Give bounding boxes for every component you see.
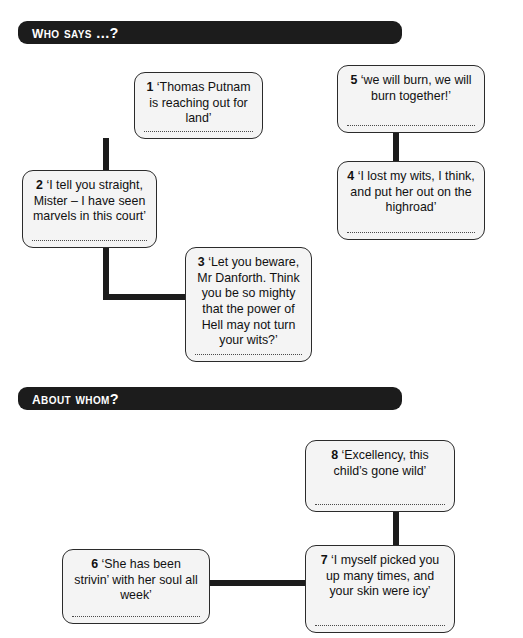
quote-box-6-text: 6 ‘She has been strivin’ with her soul a… <box>72 557 200 604</box>
quote-box-3-answer-line[interactable] <box>195 354 302 355</box>
quote-box-7-text: 7 ‘I myself picked you up many times, an… <box>315 553 445 600</box>
section-heading-who-says: Who says ...? <box>18 21 402 44</box>
quote-box-2-text: 2 ‘I tell you straight, Mister – I have … <box>32 178 147 225</box>
quote-box-6-answer-line[interactable] <box>72 616 200 617</box>
quote-box-5-number: 5 <box>350 73 357 87</box>
quote-box-5-text: 5 ‘we will burn, we will burn together!’ <box>347 73 475 104</box>
quote-box-4-quote: ‘I lost my wits, I think, and put her ou… <box>350 169 474 214</box>
quote-box-3[interactable]: 3 ‘Let you beware, Mr Danforth. Think yo… <box>185 247 312 362</box>
quote-box-3-number: 3 <box>198 255 205 269</box>
quote-box-5-answer-line[interactable] <box>347 125 475 126</box>
quote-box-1[interactable]: 1 ‘Thomas Putnam is reaching out for lan… <box>134 72 263 139</box>
quote-box-6[interactable]: 6 ‘She has been strivin’ with her soul a… <box>62 549 210 624</box>
quote-box-1-answer-line[interactable] <box>144 131 253 132</box>
section-heading-about-whom-label: About whom? <box>32 390 119 407</box>
quote-box-1-quote: ‘Thomas Putnam is reaching out for land’ <box>149 80 250 125</box>
quote-box-6-number: 6 <box>91 557 98 571</box>
connector-line-vertical-box5-box4 <box>393 131 399 163</box>
section-heading-about-whom: About whom? <box>18 387 402 410</box>
quote-box-8[interactable]: 8 ‘Excellency, this child’s gone wild’ <box>305 440 455 512</box>
quote-box-4-text: 4 ‘I lost my wits, I think, and put her … <box>347 169 475 216</box>
quote-box-2-answer-line[interactable] <box>32 240 147 241</box>
quote-box-8-quote: ‘Excellency, this child’s gone wild’ <box>334 448 429 478</box>
quote-box-7[interactable]: 7 ‘I myself picked you up many times, an… <box>305 545 455 633</box>
quote-box-4-number: 4 <box>347 169 354 183</box>
quote-box-3-text: 3 ‘Let you beware, Mr Danforth. Think yo… <box>195 255 302 349</box>
connector-line-vertical-box8-box7 <box>393 510 399 547</box>
quote-box-8-answer-line[interactable] <box>315 504 445 505</box>
quote-box-1-text: 1 ‘Thomas Putnam is reaching out for lan… <box>144 80 253 127</box>
quote-box-2-quote: ‘I tell you straight, Mister – I have se… <box>33 178 146 223</box>
connector-line-horizontal-box6-box7 <box>207 580 307 586</box>
quote-box-8-text: 8 ‘Excellency, this child’s gone wild’ <box>315 448 445 479</box>
quote-box-8-number: 8 <box>331 448 338 462</box>
quote-box-5-quote: ‘we will burn, we will burn together!’ <box>361 73 472 103</box>
connector-line-horizontal-to-box3 <box>103 294 189 300</box>
quote-box-2[interactable]: 2 ‘I tell you straight, Mister – I have … <box>22 170 157 248</box>
worksheet-page: Who says ...? 1 ‘Thomas Putnam is reachi… <box>0 0 523 638</box>
quote-box-2-number: 2 <box>36 178 43 192</box>
quote-box-4[interactable]: 4 ‘I lost my wits, I think, and put her … <box>337 161 485 240</box>
quote-box-7-answer-line[interactable] <box>315 625 445 626</box>
quote-box-1-number: 1 <box>146 80 153 94</box>
quote-box-7-number: 7 <box>321 553 328 567</box>
quote-box-3-quote: ‘Let you beware, Mr Danforth. Think you … <box>197 255 299 347</box>
quote-box-7-quote: ‘I myself picked you up many times, and … <box>326 553 439 598</box>
quote-box-4-answer-line[interactable] <box>347 232 475 233</box>
section-heading-who-says-label: Who says ...? <box>32 24 119 41</box>
quote-box-5[interactable]: 5 ‘we will burn, we will burn together!’ <box>337 65 485 133</box>
